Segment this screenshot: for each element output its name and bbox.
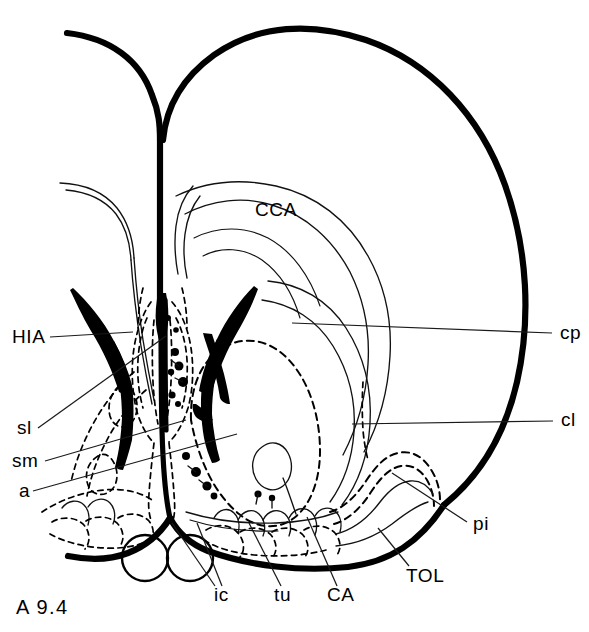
medial-wall-contours xyxy=(60,183,200,404)
label-tol: TOL xyxy=(406,565,444,586)
label-hia: HIA xyxy=(12,326,45,347)
label-ca: CA xyxy=(327,584,355,605)
leader-cp xyxy=(292,323,552,333)
label-sm: sm xyxy=(12,450,39,471)
label-cp: cp xyxy=(560,322,581,343)
leader-ca xyxy=(307,517,337,586)
label-a: a xyxy=(19,480,30,501)
brain-section-drawing: HIA sl sm a cp cl pi ic tu CA TOL CCA A … xyxy=(0,0,589,632)
label-sl: sl xyxy=(17,417,32,438)
caudate-putamen-contour xyxy=(262,281,370,505)
ventral-dashed-band-left xyxy=(42,489,152,512)
leader-hia xyxy=(50,332,133,337)
outer-cortex-outline xyxy=(67,29,525,505)
olfactory-tubercle-islands xyxy=(50,499,341,558)
label-ic: ic xyxy=(214,584,229,605)
label-tu: tu xyxy=(274,584,291,605)
plate-label: A 9.4 xyxy=(16,596,69,618)
optic-tract-circles xyxy=(122,535,213,581)
label-cl: cl xyxy=(561,409,576,430)
leader-cl xyxy=(352,421,553,424)
label-pi: pi xyxy=(473,513,489,534)
label-cca: CCA xyxy=(255,199,297,220)
figure-root: HIA sl sm a cp cl pi ic tu CA TOL CCA A … xyxy=(0,0,589,632)
